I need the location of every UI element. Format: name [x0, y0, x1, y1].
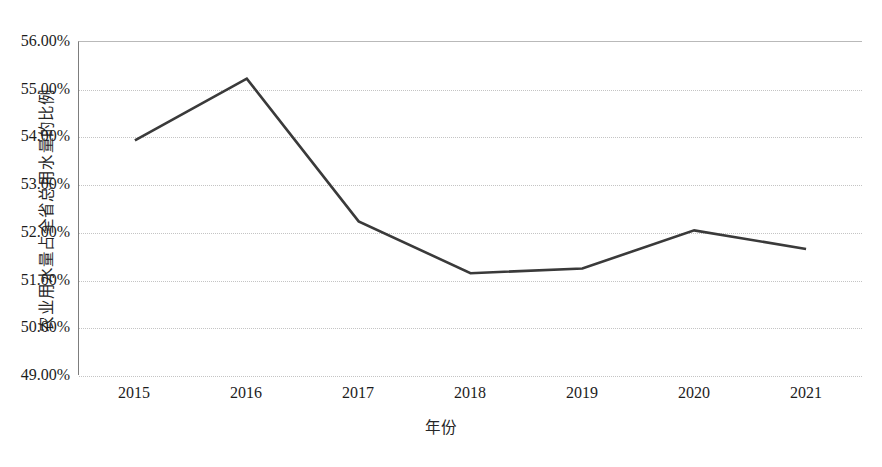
x-axis-tick-label: 2020 — [678, 384, 710, 402]
y-axis-tick-label: 54.00% — [21, 127, 70, 145]
x-axis-tick-label: 2016 — [230, 384, 262, 402]
y-axis-tick-label: 50.00% — [21, 318, 70, 336]
y-axis-tick-label: 52.00% — [21, 223, 70, 241]
y-axis-tick-label: 55.00% — [21, 80, 70, 98]
y-axis-tick-label: 53.00% — [21, 175, 70, 193]
line-series-svg — [79, 42, 862, 375]
series-line-agricultural-water-share — [135, 79, 806, 274]
gridline — [79, 376, 862, 377]
plot-area — [78, 41, 862, 375]
x-axis-title: 年份 — [0, 415, 882, 437]
y-axis-tick-label: 51.00% — [21, 271, 70, 289]
x-axis-tick-label: 2018 — [454, 384, 486, 402]
x-axis-tick-label: 2019 — [566, 384, 598, 402]
x-axis-tick-labels: 2015201620172018201920202021 — [78, 384, 862, 410]
x-axis-tick-label: 2021 — [790, 384, 822, 402]
x-axis-tick-label: 2015 — [118, 384, 150, 402]
chart-figure: 农业用水量占全省总用水量的比例 49.00%50.00%51.00%52.00%… — [0, 0, 882, 467]
y-axis-tick-label: 49.00% — [21, 366, 70, 384]
y-axis-tick-label: 56.00% — [21, 32, 70, 50]
x-axis-tick-label: 2017 — [342, 384, 374, 402]
y-axis-tick-labels: 49.00%50.00%51.00%52.00%53.00%54.00%55.0… — [0, 0, 74, 467]
